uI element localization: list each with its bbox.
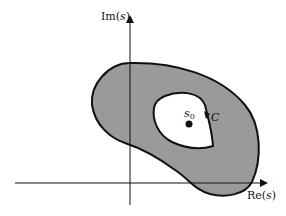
complex-plane-diagram: Im(s) Re(s) C s0 [0,0,286,216]
y-axis-label: Im(s) [101,10,130,23]
contour-label: C [211,111,220,124]
point-s0 [186,121,193,128]
point-label: s0 [184,107,195,121]
shaded-region [92,63,259,196]
x-axis-label: Re(s) [247,189,276,202]
